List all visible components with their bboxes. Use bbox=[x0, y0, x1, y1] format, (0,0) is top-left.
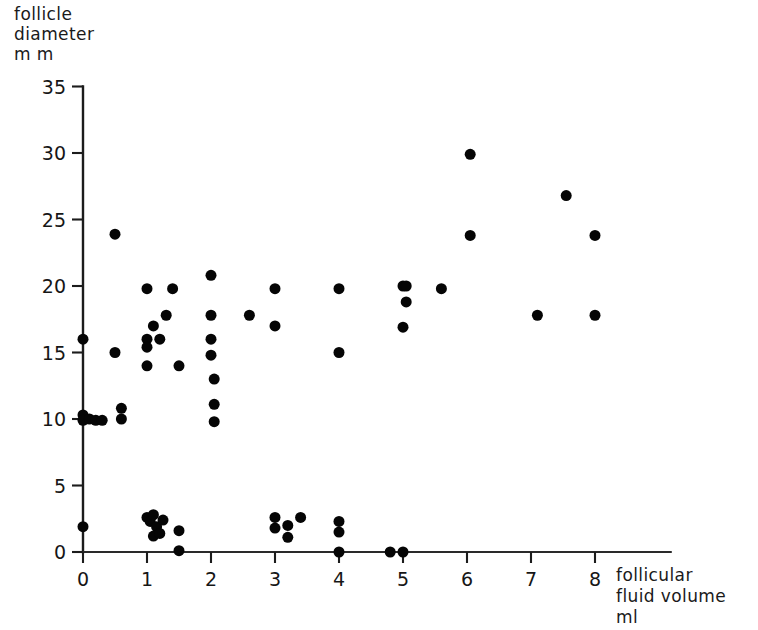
data-point bbox=[532, 310, 543, 321]
y-tick-label: 5 bbox=[54, 475, 66, 497]
data-point bbox=[590, 310, 601, 321]
data-point bbox=[334, 527, 345, 538]
data-point bbox=[385, 547, 396, 558]
data-point bbox=[270, 523, 281, 534]
data-point bbox=[334, 283, 345, 294]
data-point bbox=[465, 149, 476, 160]
data-point bbox=[436, 283, 447, 294]
data-point bbox=[142, 283, 153, 294]
x-tick-label: 8 bbox=[589, 568, 601, 590]
x-tick-label: 0 bbox=[77, 568, 89, 590]
y-tick-label: 10 bbox=[42, 408, 66, 430]
data-point bbox=[334, 547, 345, 558]
data-point bbox=[270, 320, 281, 331]
data-point bbox=[590, 230, 601, 241]
data-point bbox=[78, 521, 89, 532]
data-points bbox=[78, 149, 601, 558]
y-axis: 05101520253035 bbox=[42, 76, 83, 564]
plot-canvas: 05101520253035 012345678 bbox=[0, 0, 758, 630]
x-tick-label: 7 bbox=[525, 568, 537, 590]
data-point bbox=[270, 283, 281, 294]
y-tick-label: 35 bbox=[42, 76, 66, 98]
scatter-plot-figure: follicle diameter m m follicular fluid v… bbox=[0, 0, 758, 630]
data-point bbox=[154, 528, 165, 539]
data-point bbox=[142, 360, 153, 371]
y-tick-label: 30 bbox=[42, 142, 66, 164]
data-point bbox=[401, 296, 412, 307]
x-tick-label: 2 bbox=[205, 568, 217, 590]
y-tick-label: 20 bbox=[42, 275, 66, 297]
data-point bbox=[174, 545, 185, 556]
data-point bbox=[401, 281, 412, 292]
x-tick-label: 5 bbox=[397, 568, 409, 590]
data-point bbox=[209, 416, 220, 427]
data-point bbox=[206, 270, 217, 281]
data-point bbox=[465, 230, 476, 241]
data-point bbox=[161, 310, 172, 321]
data-point bbox=[174, 525, 185, 536]
y-tick-label: 25 bbox=[42, 209, 66, 231]
data-point bbox=[334, 347, 345, 358]
data-point bbox=[206, 350, 217, 361]
data-point bbox=[167, 283, 178, 294]
data-point bbox=[148, 509, 159, 520]
data-point bbox=[110, 347, 121, 358]
x-tick-label: 6 bbox=[461, 568, 473, 590]
data-point bbox=[270, 512, 281, 523]
data-point bbox=[282, 520, 293, 531]
data-point bbox=[561, 190, 572, 201]
data-point bbox=[334, 516, 345, 527]
data-point bbox=[209, 374, 220, 385]
data-point bbox=[116, 414, 127, 425]
y-tick-label: 15 bbox=[42, 342, 66, 364]
x-axis: 012345678 bbox=[77, 552, 672, 590]
data-point bbox=[154, 334, 165, 345]
data-point bbox=[206, 334, 217, 345]
data-point bbox=[174, 360, 185, 371]
data-point bbox=[244, 310, 255, 321]
data-point bbox=[78, 334, 89, 345]
data-point bbox=[209, 399, 220, 410]
x-tick-label: 3 bbox=[269, 568, 281, 590]
x-tick-label: 4 bbox=[333, 568, 345, 590]
data-point bbox=[295, 512, 306, 523]
data-point bbox=[158, 515, 169, 526]
data-point bbox=[97, 415, 108, 426]
x-tick-label: 1 bbox=[141, 568, 153, 590]
data-point bbox=[116, 403, 127, 414]
data-point bbox=[110, 229, 121, 240]
data-point bbox=[142, 342, 153, 353]
data-point bbox=[282, 532, 293, 543]
data-point bbox=[206, 310, 217, 321]
data-point bbox=[398, 322, 409, 333]
y-tick-label: 0 bbox=[54, 541, 66, 563]
data-point bbox=[398, 547, 409, 558]
data-point bbox=[148, 320, 159, 331]
